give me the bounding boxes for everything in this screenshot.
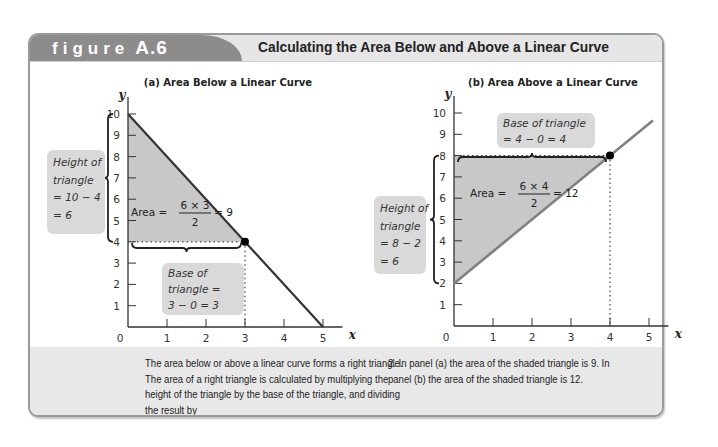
x-tick-label: 3 xyxy=(242,332,249,344)
y-tick-label: 3 xyxy=(439,256,446,268)
x-tick-label: 1 xyxy=(490,331,497,343)
y-tick-label: 6 xyxy=(439,192,446,204)
area-denominator: 2 xyxy=(192,216,199,228)
base-brace xyxy=(132,243,241,252)
height-brace xyxy=(104,114,113,242)
panel-b: (b) Area Above a Linear Curveyx123456789… xyxy=(374,77,683,343)
base-note-line: Base of xyxy=(168,267,209,279)
y-tick-label: 9 xyxy=(439,128,446,140)
x-tick-label: 2 xyxy=(203,332,210,344)
height-note-line: = 6 xyxy=(380,255,399,267)
charts-svg: (a) Area Below a Linear Curveyx123456789… xyxy=(0,0,718,447)
height-note-line: Height of xyxy=(53,156,103,168)
base-note-line: triangle = xyxy=(168,283,221,295)
panel-a: (a) Area Below a Linear Curveyx123456789… xyxy=(47,77,357,344)
height-note-line: = 10 − 4 xyxy=(53,191,101,203)
area-label: Area = xyxy=(131,206,167,218)
y-tick-label: 1 xyxy=(113,300,120,312)
x-tick-label: 3 xyxy=(568,331,575,343)
area-numerator: 6 × 4 xyxy=(520,180,549,192)
area-result: = 9 xyxy=(214,206,233,218)
base-note-line: = 4 − 0 = 4 xyxy=(503,133,566,145)
y-tick-label: 2 xyxy=(439,277,446,289)
height-note-line: triangle xyxy=(53,174,93,186)
area-numerator: 6 × 3 xyxy=(181,199,210,211)
y-tick-label: 8 xyxy=(439,150,446,162)
x-axis-label: x xyxy=(348,328,357,342)
height-note-line: triangle xyxy=(380,220,420,232)
height-note-line: = 6 xyxy=(53,209,72,221)
area-result: = 12 xyxy=(553,187,579,199)
y-axis-label: y xyxy=(444,87,453,101)
height-brace xyxy=(430,156,439,284)
height-note-line: Height of xyxy=(380,202,430,214)
data-point xyxy=(606,152,614,160)
y-tick-label: 7 xyxy=(439,171,446,183)
y-tick-label: 7 xyxy=(113,172,120,184)
base-note-line: Base of triangle xyxy=(503,117,586,129)
panel-title: (b) Area Above a Linear Curve xyxy=(468,77,638,88)
y-tick-label: 6 xyxy=(113,193,120,205)
x-axis-label: x xyxy=(674,327,683,341)
y-tick-label: 1 xyxy=(439,299,446,311)
y-tick-label: 5 xyxy=(439,214,446,226)
data-point xyxy=(241,238,249,246)
y-tick-label: 5 xyxy=(113,215,120,227)
x-tick-label: 0 xyxy=(117,332,124,344)
area-denominator: 2 xyxy=(531,197,538,209)
x-tick-label: 0 xyxy=(443,331,450,343)
y-tick-label: 8 xyxy=(113,151,120,163)
base-note-line: 3 − 0 = 3 xyxy=(168,299,219,311)
x-tick-label: 4 xyxy=(607,331,614,343)
x-tick-label: 4 xyxy=(281,332,288,344)
x-tick-label: 1 xyxy=(164,332,171,344)
y-tick-label: 4 xyxy=(113,236,120,248)
x-tick-label: 5 xyxy=(320,332,327,344)
y-tick-label: 2 xyxy=(113,278,120,290)
y-tick-label: 10 xyxy=(433,107,446,119)
x-tick-label: 5 xyxy=(646,331,653,343)
x-tick-label: 2 xyxy=(529,331,536,343)
y-tick-label: 4 xyxy=(439,235,446,247)
height-note-line: = 8 − 2 xyxy=(380,237,421,249)
panel-title: (a) Area Below a Linear Curve xyxy=(144,77,312,88)
y-axis-label: y xyxy=(118,88,127,102)
area-label: Area = xyxy=(470,187,506,199)
y-tick-label: 3 xyxy=(113,257,120,269)
y-tick-label: 9 xyxy=(113,129,120,141)
